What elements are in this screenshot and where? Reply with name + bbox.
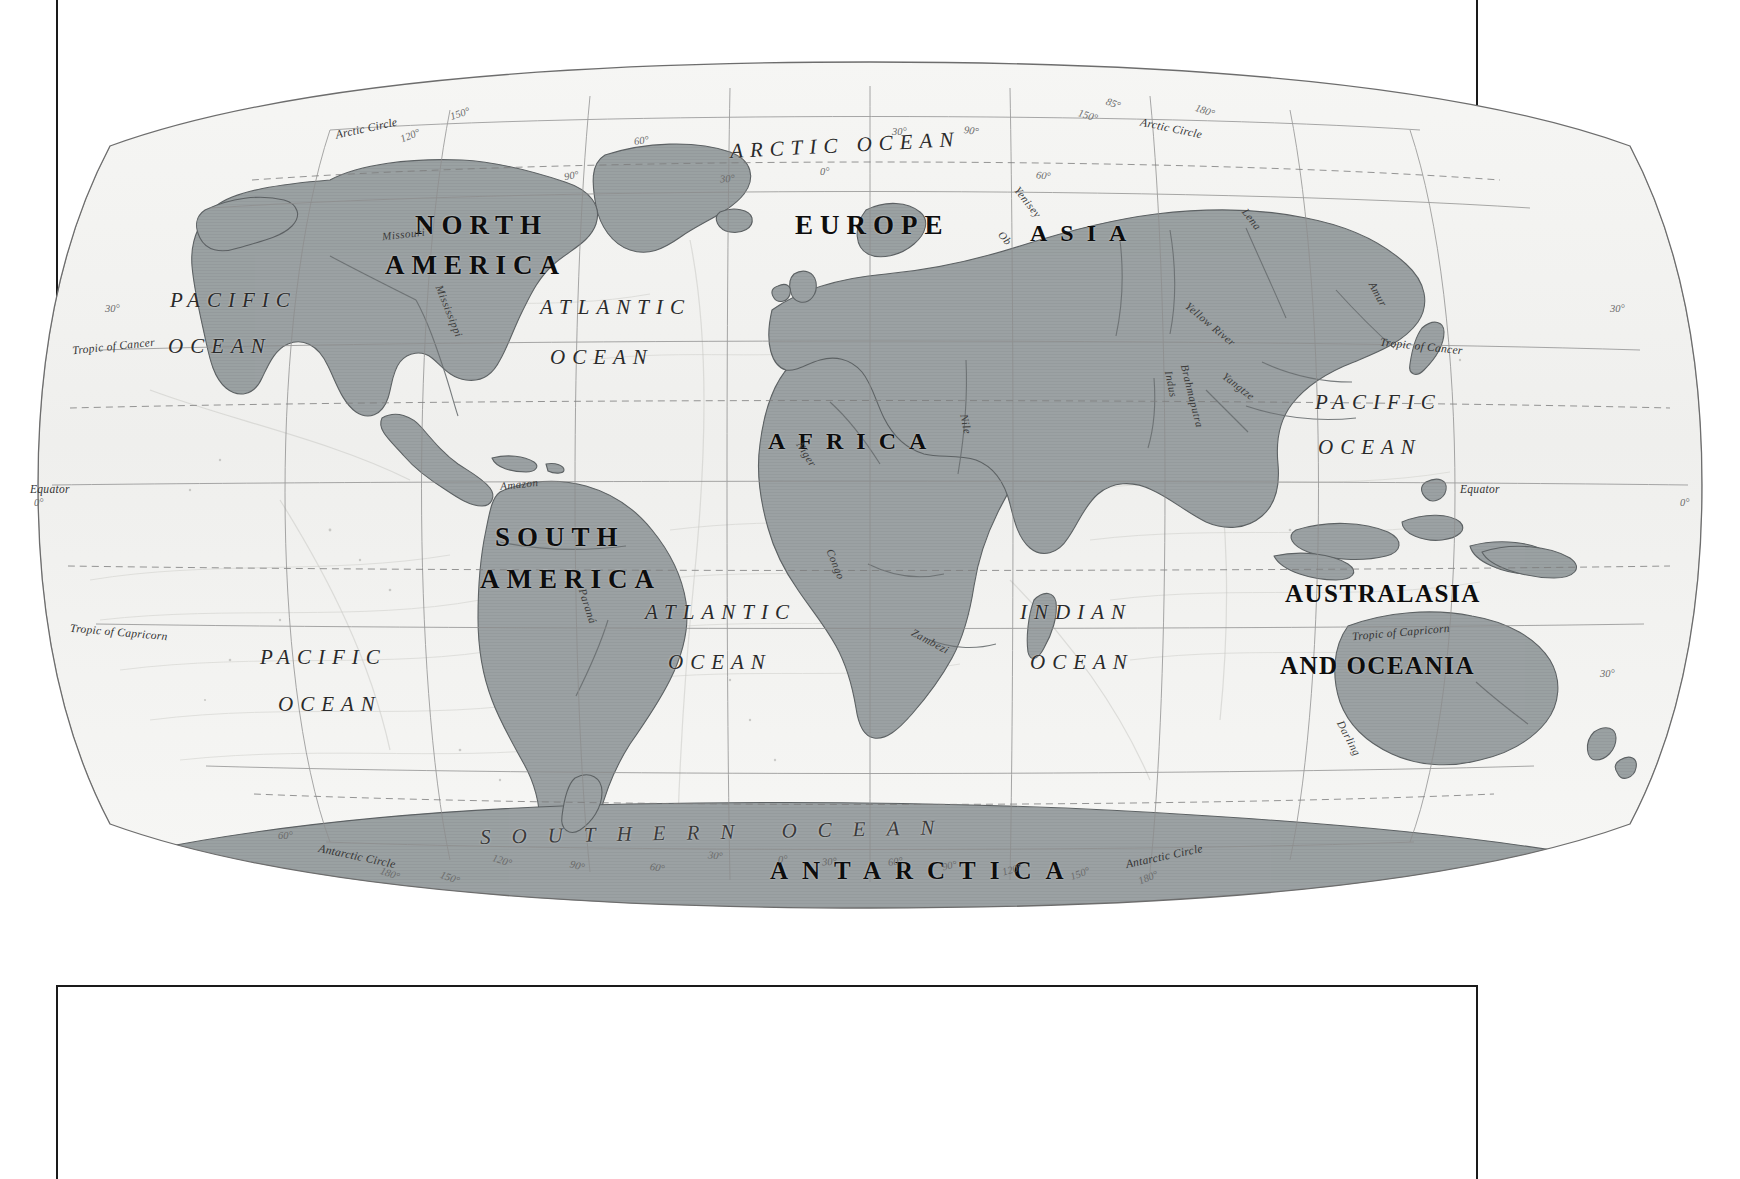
land-philippines — [1422, 479, 1447, 501]
land-iceland — [716, 209, 752, 232]
map-graphics — [30, 60, 1710, 910]
map-canvas[interactable]: NORTH AMERICA SOUTH AMERICA EUROPE AFRIC… — [30, 60, 1710, 910]
page-root: NORTH AMERICA SOUTH AMERICA EUROPE AFRIC… — [0, 0, 1740, 1179]
world-map[interactable]: NORTH AMERICA SOUTH AMERICA EUROPE AFRIC… — [0, 0, 1740, 1179]
